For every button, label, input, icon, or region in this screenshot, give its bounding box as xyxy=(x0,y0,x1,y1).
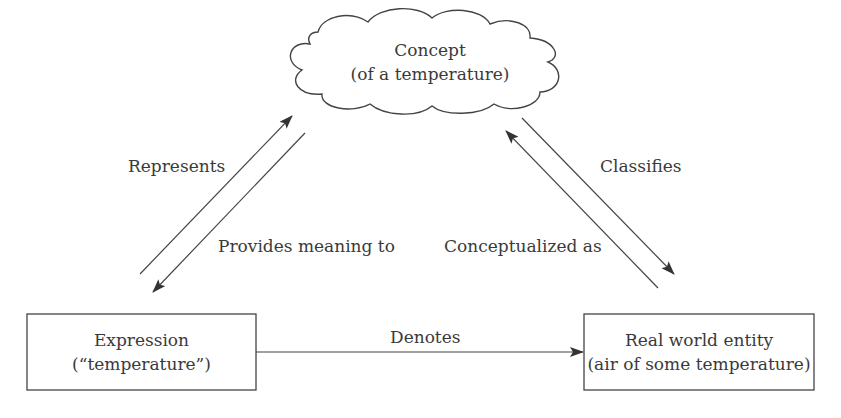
entity-title: Real world entity xyxy=(584,328,814,352)
entity-subtitle: (air of some temperature) xyxy=(584,352,814,376)
expression-subtitle: (“temperature”) xyxy=(27,352,256,376)
conceptualized-arrow xyxy=(506,131,658,288)
classifies-label: Classifies xyxy=(600,156,682,176)
concept-title: Concept xyxy=(320,38,540,62)
represents-label: Represents xyxy=(128,156,225,176)
concept-subtitle: (of a temperature) xyxy=(320,62,540,86)
entity-node: Real world entity (air of some temperatu… xyxy=(584,328,814,376)
denotes-label: Denotes xyxy=(390,327,461,347)
expression-title: Expression xyxy=(27,328,256,352)
provides-meaning-label: Provides meaning to xyxy=(218,236,395,256)
conceptualized-label: Conceptualized as xyxy=(444,236,602,256)
concept-node: Concept (of a temperature) xyxy=(320,38,540,86)
expression-node: Expression (“temperature”) xyxy=(27,328,256,376)
